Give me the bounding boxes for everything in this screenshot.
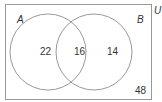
intersection-count: 16 bbox=[74, 47, 85, 57]
outside-count: 48 bbox=[135, 86, 146, 96]
set-b-circle bbox=[56, 14, 132, 90]
set-b-label: B bbox=[137, 15, 144, 25]
set-b-only-count: 14 bbox=[107, 47, 118, 57]
set-a-label: A bbox=[17, 15, 24, 25]
set-a-only-count: 22 bbox=[40, 47, 51, 57]
universe-label: U bbox=[154, 6, 161, 16]
